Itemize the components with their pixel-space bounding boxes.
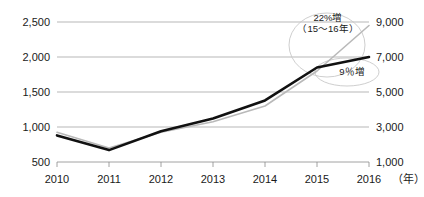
- y-axis-right-label-7000: 7,000: [376, 52, 424, 63]
- y-axis-right-label-1000: 1,000: [376, 157, 424, 168]
- series-black-line: [57, 57, 369, 150]
- annotation-growth-22-line1: 22%増: [292, 12, 364, 23]
- x-axis: [57, 162, 369, 167]
- line-chart: 2,500 2,000 1,500 1,000 500 9,000 7,000 …: [0, 0, 424, 197]
- annotation-growth-22-line2: （15〜16年）: [292, 23, 364, 34]
- x-axis-label-2014: 2014: [245, 174, 285, 185]
- gridlines: [57, 22, 369, 127]
- y-axis-left-label-500: 500: [2, 157, 50, 168]
- y-axis-left-label-2500: 2,500: [2, 17, 50, 28]
- y-axis-right-label-5000: 5,000: [376, 87, 424, 98]
- x-axis-label-2010: 2010: [37, 174, 77, 185]
- x-axis-unit-label: （年）: [392, 174, 424, 185]
- annotation-growth-9: 9％増: [330, 66, 374, 77]
- x-axis-label-2012: 2012: [141, 174, 181, 185]
- y-axis-left-label-1500: 1,500: [2, 87, 50, 98]
- x-axis-label-2013: 2013: [193, 174, 233, 185]
- x-axis-label-2015: 2015: [297, 174, 337, 185]
- y-axis-left-label-1000: 1,000: [2, 122, 50, 133]
- x-axis-label-2016: 2016: [349, 174, 389, 185]
- x-axis-label-2011: 2011: [89, 174, 129, 185]
- series-gray-line: [57, 26, 369, 149]
- annotation-growth-9-line1: 9％増: [330, 66, 374, 77]
- annotation-growth-22: 22%増 （15〜16年）: [292, 12, 364, 34]
- y-axis-right-label-3000: 3,000: [376, 122, 424, 133]
- y-axis-right-label-9000: 9,000: [376, 17, 424, 28]
- y-axis-left-label-2000: 2,000: [2, 52, 50, 63]
